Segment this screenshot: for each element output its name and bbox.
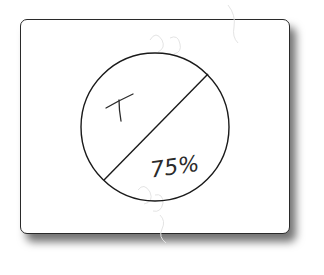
split-circle-diagram: T 75% bbox=[0, 0, 324, 275]
label-lower-right-text: 75% bbox=[149, 151, 201, 183]
watermark-scribbles bbox=[138, 5, 238, 243]
label-upper-left: T bbox=[106, 94, 133, 121]
label-lower-right: 75% bbox=[149, 151, 201, 183]
diagram-stage: T 75% bbox=[0, 0, 324, 275]
